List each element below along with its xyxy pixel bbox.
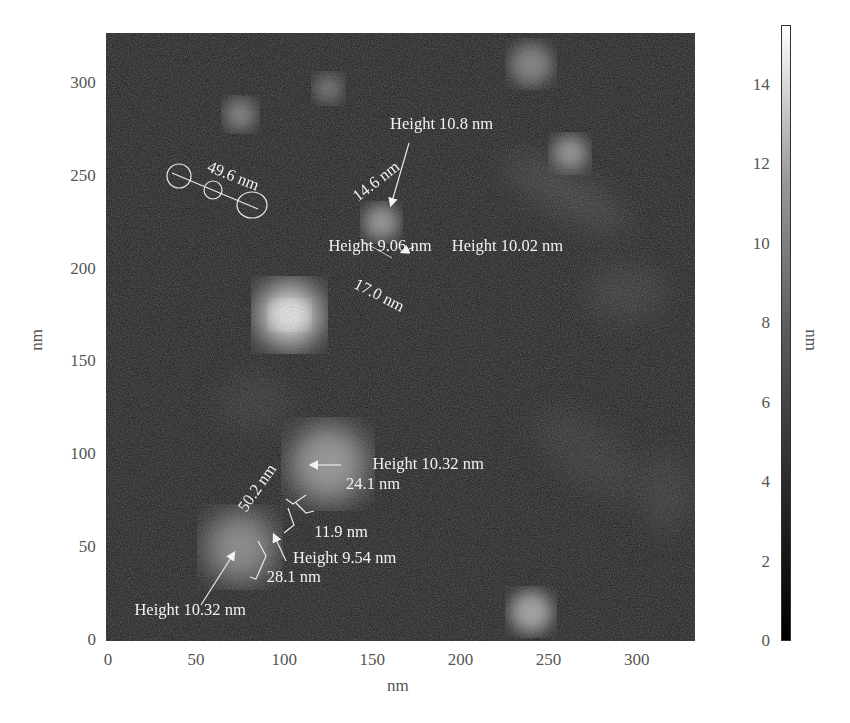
colorbar-tick-label: 6 [761,394,770,411]
height-annotation: Height 9.06 nm [328,238,431,255]
height-annotation: Height 10.8 nm [390,116,493,133]
x-tick-label: 100 [271,651,297,668]
colorbar-tick-label: 8 [761,314,770,331]
height-annotation: Height 10.32 nm [134,602,245,619]
height-annotation: Height 10.02 nm [452,238,563,255]
colorbar-tick-label: 0 [761,632,770,649]
colorbar-tick-label: 14 [753,76,770,93]
y-tick-label: 0 [87,631,96,648]
length-annotation: 28.1 nm [267,569,321,586]
x-tick-label: 0 [104,651,113,668]
length-annotation: 24.1 nm [346,476,400,493]
x-axis-title: nm [387,676,409,696]
y-tick-label: 200 [70,260,96,277]
y-tick-label: 50 [79,538,96,555]
x-tick-label: 150 [360,651,386,668]
colorbar-title: nm [801,329,821,351]
colorbar-tick-label: 12 [753,155,770,172]
height-annotation: Height 9.54 nm [293,550,396,567]
y-axis-title: nm [27,329,47,351]
height-annotation: Height 10.32 nm [372,456,483,473]
length-annotation: 11.9 nm [314,524,367,541]
colorbar [781,25,791,641]
x-tick-label: 300 [624,651,650,668]
y-tick-label: 250 [70,167,96,184]
x-tick-label: 50 [188,651,205,668]
afm-figure: 050100150200250300 050100150200250300 nm… [0,0,850,723]
x-tick-label: 250 [536,651,562,668]
colorbar-tick-label: 4 [761,473,770,490]
colorbar-tick-label: 10 [753,235,770,252]
height-map-plot: 49.6 nmHeight 10.8 nm14.6 nmHeight 9.06 … [106,33,695,641]
y-tick-label: 300 [70,74,96,91]
y-tick-label: 150 [70,352,96,369]
y-tick-label: 100 [70,445,96,462]
x-tick-label: 200 [448,651,474,668]
colorbar-tick-label: 2 [761,553,770,570]
